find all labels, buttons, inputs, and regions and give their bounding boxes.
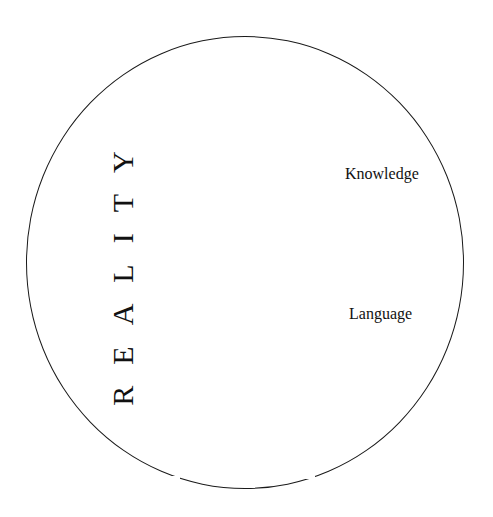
language-label: Language: [349, 306, 412, 322]
reality-label: REALITY: [108, 130, 138, 405]
knowledge-label: Knowledge: [345, 166, 419, 182]
circle-gap-right: [305, 476, 315, 479]
reality-circle: [26, 36, 464, 489]
circle-gap-left: [170, 476, 180, 479]
diagram-canvas: REALITY Knowledge Language: [0, 0, 493, 517]
